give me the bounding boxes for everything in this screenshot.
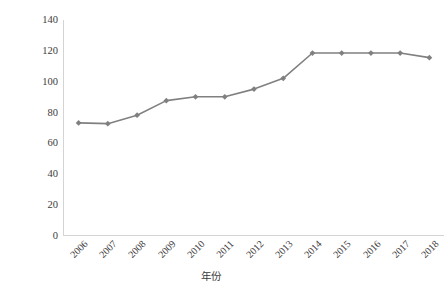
x-tick-label: 2006: [60, 238, 89, 267]
y-axis-tick-labels: 020406080100120140: [26, 0, 58, 291]
x-tick-label: 2011: [207, 238, 236, 267]
line-chart: 价格：元/50KG 020406080100120140 20062007200…: [0, 0, 448, 291]
data-point-marker: [134, 112, 140, 118]
x-tick-label: 2012: [236, 238, 265, 267]
y-tick-label: 20: [28, 200, 58, 211]
data-point-marker: [368, 50, 374, 56]
x-tick-label: 2018: [412, 238, 441, 267]
y-tick-label: 0: [28, 231, 58, 242]
data-point-marker: [222, 94, 228, 100]
data-point-marker: [397, 50, 403, 56]
x-tick-label: 2009: [148, 238, 177, 267]
x-tick-label: 2016: [354, 238, 383, 267]
plot-area: [63, 20, 444, 236]
x-tick-label: 2008: [119, 238, 148, 267]
x-tick-label: 2007: [90, 238, 119, 267]
y-tick-label: 60: [28, 138, 58, 149]
y-tick-label: 40: [28, 169, 58, 180]
x-tick-label: 2014: [295, 238, 324, 267]
x-axis-title-text: 年份: [201, 268, 222, 283]
data-point-marker: [251, 86, 257, 92]
x-tick-label: 2010: [178, 238, 207, 267]
series-plot: [64, 20, 444, 235]
y-tick-label: 100: [28, 76, 58, 87]
data-point-marker: [163, 98, 169, 104]
y-tick-label: 80: [28, 107, 58, 118]
data-point-marker: [339, 50, 345, 56]
data-point-marker: [76, 120, 82, 126]
data-point-marker: [105, 121, 111, 127]
data-point-marker: [193, 94, 199, 100]
x-axis-title: 年份: [0, 268, 448, 283]
x-tick-label: 2017: [383, 238, 412, 267]
y-tick-label: 120: [28, 46, 58, 57]
y-tick-label: 140: [28, 15, 58, 26]
x-tick-label: 2013: [266, 238, 295, 267]
x-tick-label: 2015: [324, 238, 353, 267]
data-point-marker: [426, 55, 432, 61]
